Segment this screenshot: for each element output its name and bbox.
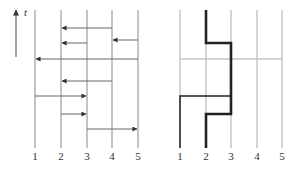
lane-label-3: 3 [84, 150, 90, 162]
lane-label-5: 5 [135, 150, 141, 162]
time-axis-label: t [24, 6, 28, 18]
lane-label-2: 2 [58, 150, 64, 162]
lane-label-3: 3 [228, 150, 234, 162]
lane-label-2: 2 [203, 150, 209, 162]
lane-label-4: 4 [109, 150, 115, 162]
lane-label-1: 1 [32, 150, 38, 162]
lane-label-5: 5 [279, 150, 285, 162]
right-panel: 12345 [177, 10, 285, 162]
lane-label-1: 1 [177, 150, 183, 162]
left-panel: t12345 [16, 6, 141, 162]
thick-trace-path [206, 10, 231, 148]
diagram-canvas: t12345 12345 [0, 0, 300, 169]
lane-label-4: 4 [254, 150, 260, 162]
